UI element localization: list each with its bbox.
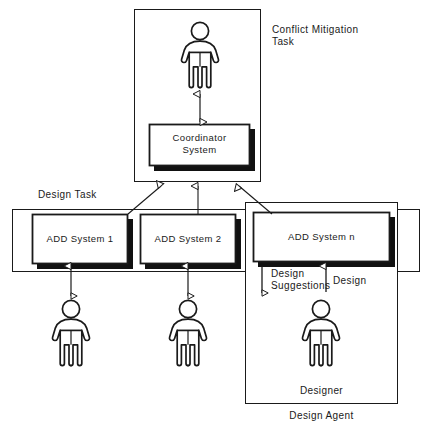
design-task-label: Design Task: [38, 189, 97, 201]
designer-label: Designer: [245, 385, 398, 397]
designer-person-2-icon: [169, 300, 206, 365]
design-suggestions-label: Design Suggestions: [271, 268, 330, 292]
diagram-canvas: [0, 0, 430, 426]
add-system-2-label: ADD System 2: [140, 233, 236, 245]
conflict-mitigation-task-label: Conflict Mitigation Task: [272, 24, 359, 48]
coordinator-system-label: Coordinator System: [149, 132, 250, 155]
design-agent-label: Design Agent: [245, 410, 398, 422]
conflict-mitigation-diagram: Conflict Mitigation Task Design Task Coo…: [0, 0, 430, 426]
design-label: Design: [333, 275, 367, 287]
add-system-n-label: ADD System n: [253, 231, 390, 243]
designer-person-1-icon: [52, 300, 89, 365]
add-system-1-label: ADD System 1: [32, 233, 128, 245]
